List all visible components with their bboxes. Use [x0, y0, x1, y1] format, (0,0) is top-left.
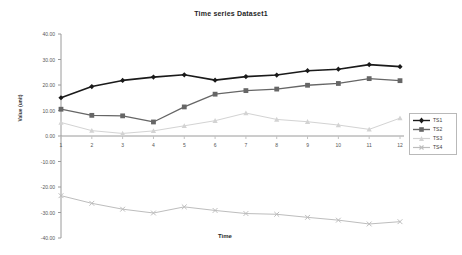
- x-axis: 123456789101112: [60, 136, 404, 148]
- x-tick-label: 10: [336, 142, 342, 148]
- legend-marker-diamond-icon: [412, 116, 431, 125]
- y-tick-label: -10.00: [41, 159, 55, 165]
- y-tick-label: 40.00: [42, 31, 55, 37]
- y-tick-label: 30.00: [42, 57, 55, 63]
- x-tick-label: 4: [152, 142, 155, 148]
- data-series-group: [58, 62, 402, 226]
- legend-label-ts3: TS3: [431, 134, 442, 143]
- y-tick-label: 20.00: [42, 82, 55, 88]
- x-tick-label: 3: [121, 142, 124, 148]
- chart-legend: TS1 TS2 TS3 TS4: [409, 113, 457, 155]
- x-axis-title: Time: [60, 233, 390, 239]
- x-tick-label: 2: [90, 142, 93, 148]
- x-tick-label: 7: [245, 142, 248, 148]
- legend-label-ts4: TS4: [431, 143, 442, 152]
- legend-item-ts2[interactable]: TS2: [412, 125, 454, 134]
- x-tick-label: 11: [367, 142, 372, 148]
- legend-marker-square-icon: [412, 125, 431, 134]
- legend-label-ts2: TS2: [431, 125, 442, 134]
- y-tick-label: -30.00: [41, 210, 55, 216]
- y-axis: 40.0030.0020.0010.000.00-10.00-20.00-30.…: [41, 31, 61, 241]
- series-ts3: [58, 110, 402, 135]
- y-tick-label: 0.00: [45, 133, 55, 139]
- series-ts4: [59, 193, 403, 226]
- legend-marker-triangle-icon: [412, 134, 431, 143]
- y-tick-label: 10.00: [42, 108, 55, 114]
- y-axis-title: Value (unit): [17, 78, 23, 138]
- legend-label-ts1: TS1: [431, 116, 442, 125]
- legend-item-ts1[interactable]: TS1: [412, 116, 454, 125]
- x-tick-label: 12: [397, 142, 403, 148]
- x-tick-label: 9: [306, 142, 309, 148]
- legend-item-ts4[interactable]: TS4: [412, 143, 454, 152]
- plot-area: 40.0030.0020.0010.000.00-10.00-20.00-30.…: [0, 0, 462, 255]
- x-tick-label: 1: [60, 142, 63, 148]
- x-tick-label: 5: [183, 142, 186, 148]
- legend-marker-cross-icon: [412, 143, 431, 152]
- chart-container: Time series Dataset1 40.0030.0020.0010.0…: [0, 0, 462, 255]
- x-tick-label: 8: [275, 142, 278, 148]
- x-tick-label: 6: [214, 142, 217, 148]
- y-tick-label: -20.00: [41, 184, 55, 190]
- legend-item-ts3[interactable]: TS3: [412, 134, 454, 143]
- y-tick-label: -40.00: [41, 235, 55, 241]
